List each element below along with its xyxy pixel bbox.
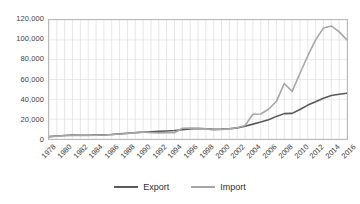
y-axis-tick-label: 20,000 — [20, 116, 44, 124]
x-axis-tick-label: 1978 — [40, 143, 57, 160]
x-axis-tick-label: 2016 — [340, 143, 357, 160]
legend-item[interactable]: Export — [114, 182, 169, 192]
legend-line-swatch — [114, 186, 138, 188]
y-axis-tick-label: 0 — [40, 136, 44, 144]
x-axis-tick-label: 1986 — [103, 143, 120, 160]
x-axis-tick-label: 2014 — [324, 143, 341, 160]
y-axis-tick-label: 100,000 — [16, 35, 44, 43]
legend-line-swatch — [191, 186, 215, 188]
x-axis-tick-label: 2002 — [230, 143, 247, 160]
y-axis-tick-label: 80,000 — [20, 55, 44, 63]
data-series-layer — [49, 20, 347, 139]
x-axis-tick-label: 1990 — [135, 143, 152, 160]
x-axis-tick-label: 1982 — [72, 143, 89, 160]
x-axis-tick-label: 2012 — [309, 143, 326, 160]
plot-area — [48, 19, 348, 140]
x-axis-tick-label: 1996 — [182, 143, 199, 160]
x-axis-tick-label: 2006 — [261, 143, 278, 160]
x-axis-tick-label: 2000 — [214, 143, 231, 160]
x-axis-tick-label: 2010 — [293, 143, 310, 160]
legend-label: Import — [220, 182, 246, 192]
y-axis-tick-label: 40,000 — [20, 96, 44, 104]
x-axis-tick-label: 1992 — [151, 143, 168, 160]
y-axis-tick-label: 60,000 — [20, 76, 44, 84]
trade-line-chart: 020,00040,00060,00080,000100,000120,000 … — [0, 0, 360, 204]
x-axis-tick-label: 2008 — [277, 143, 294, 160]
y-axis: 020,00040,00060,00080,000100,000120,000 — [0, 19, 44, 140]
x-axis-tick-label: 1984 — [88, 143, 105, 160]
x-axis-tick-label: 2004 — [245, 143, 262, 160]
chart-legend: ExportImport — [0, 178, 360, 196]
x-axis-tick-label: 1994 — [167, 143, 184, 160]
x-axis: 1978198019821984198619881990199219941996… — [48, 141, 348, 175]
x-axis-tick-label: 1980 — [56, 143, 73, 160]
legend-label: Export — [143, 182, 169, 192]
x-axis-tick-label: 1988 — [119, 143, 136, 160]
legend-item[interactable]: Import — [191, 182, 246, 192]
x-axis-tick-label: 1998 — [198, 143, 215, 160]
y-axis-tick-label: 120,000 — [16, 15, 44, 23]
